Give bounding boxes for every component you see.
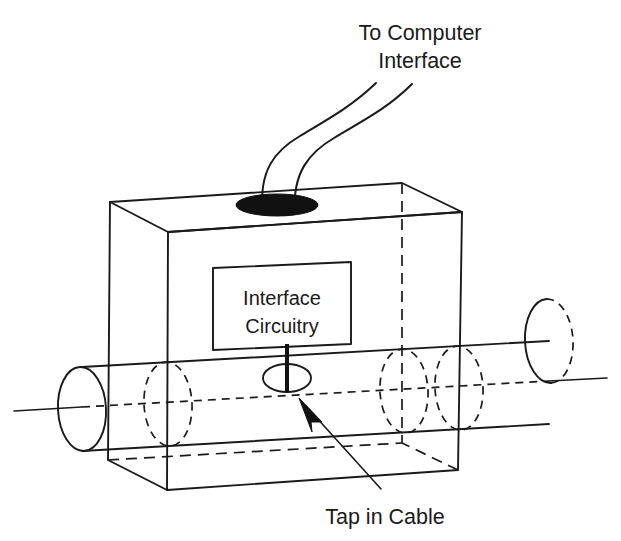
cable-entry-hole-icon <box>236 194 318 216</box>
cable-bottom-silhouette <box>82 424 549 451</box>
tap-callout-arrow-head <box>299 398 322 432</box>
cable-tap-diagram: To Computer Interface <box>0 0 621 541</box>
enclosure-hidden-edge-bottom-right-receding <box>402 443 458 470</box>
interface-circuitry-box: Interface Circuitry <box>213 262 351 350</box>
cable-axis-hidden-centerline <box>82 381 549 407</box>
interface-circuitry-line1: Interface <box>243 287 321 309</box>
cable-left-end-cap <box>56 366 108 452</box>
drop-cable-to-computer <box>262 83 412 213</box>
cable-tap <box>263 344 311 392</box>
diagram-canvas: To Computer Interface <box>0 0 621 541</box>
bottom-callout-label: Tap in Cable <box>325 505 445 529</box>
tap-callout-arrow <box>299 398 381 489</box>
top-callout-line2: Interface <box>378 49 462 73</box>
cable-section-back-right <box>378 348 430 434</box>
top-callout-line1: To Computer <box>358 21 481 45</box>
enclosure-hidden-edge-back-bottom <box>108 443 402 460</box>
cable-right-end-cap-hidden <box>547 298 575 383</box>
cable-axis-left-extension <box>14 407 82 411</box>
interface-circuitry-line2: Circuitry <box>245 315 318 337</box>
top-callout-label: To Computer Interface <box>358 21 481 73</box>
